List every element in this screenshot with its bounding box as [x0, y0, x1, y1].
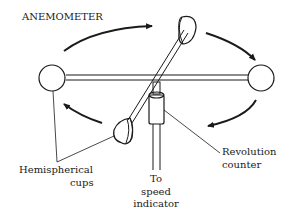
label-counter: counter — [222, 159, 261, 170]
diagram-title: ANEMOMETER — [21, 11, 103, 22]
rotation-arrow-top-right — [206, 33, 255, 60]
shaft — [153, 124, 160, 170]
counter-leader-line — [164, 110, 220, 153]
label-revolution: Revolution — [222, 146, 277, 157]
label-cups: cups — [70, 177, 94, 188]
label-speed: speed — [141, 186, 171, 197]
hemispherical-cup-right — [248, 65, 274, 91]
label-hemispherical: Hemispherical — [19, 164, 93, 175]
revolution-counter — [149, 82, 164, 124]
horizontal-arm — [66, 75, 248, 80]
diagonal-arm — [128, 30, 188, 123]
rotation-arrow-top-left — [64, 26, 152, 51]
anemometer-diagram: ANEMOMETER — [0, 0, 295, 218]
hemispherical-cup-top — [179, 16, 196, 44]
hemispherical-cup-bottom — [114, 118, 133, 144]
label-to: To — [150, 173, 162, 184]
hemispherical-cup-left — [39, 65, 65, 91]
cups-leader-lines — [53, 91, 114, 162]
label-indicator: indicator — [133, 198, 179, 209]
rotation-arrow-bottom-right — [208, 100, 256, 126]
rotation-arrow-bottom-left — [64, 104, 102, 123]
